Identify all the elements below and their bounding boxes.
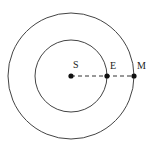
point-s-dot [68,73,73,78]
orbit-diagram: S E M [0,0,154,148]
point-m-dot [131,73,136,78]
label-m: M [137,60,146,71]
point-e-dot [104,73,109,78]
label-e: E [110,60,116,71]
label-s: S [73,59,79,70]
